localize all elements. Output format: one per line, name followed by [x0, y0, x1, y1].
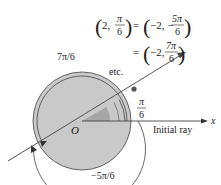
polar-coordinates-diagram: ( 2, π 6 ) = ( −2, − 5π 6 ) = ( −2, 7π 6… [0, 0, 221, 185]
small-angle-num: π [139, 96, 145, 107]
eq2-den: 6 [169, 53, 174, 64]
svg-text:=: = [133, 46, 139, 58]
eq-r: 2, [102, 19, 111, 31]
svg-text:): ) [178, 41, 185, 66]
eq2-r: −2, [150, 46, 165, 58]
point-marker [131, 86, 136, 91]
eq2-num: 7π [166, 40, 177, 51]
x-axis-label: x [210, 115, 216, 126]
eq-num: π [117, 13, 123, 24]
origin-label: O [71, 124, 79, 136]
eq-rhs-den: 6 [175, 26, 180, 37]
svg-text:): ) [125, 14, 132, 39]
eq-den: 6 [117, 26, 122, 37]
angle-neg5pi6-label: −5π/6 [91, 170, 114, 181]
small-angle-den: 6 [139, 109, 144, 120]
etc-label: etc. [109, 66, 123, 77]
eq-rhs-num: 5π [172, 13, 183, 24]
eq-rhs-r: −2, − [150, 19, 173, 31]
equals: = [133, 19, 139, 31]
initial-ray-label: Initial ray [153, 124, 192, 135]
x-axis-arrowhead-icon [201, 119, 208, 124]
angle-7pi6-label: 7π/6 [57, 51, 75, 62]
svg-text:): ) [184, 14, 191, 39]
